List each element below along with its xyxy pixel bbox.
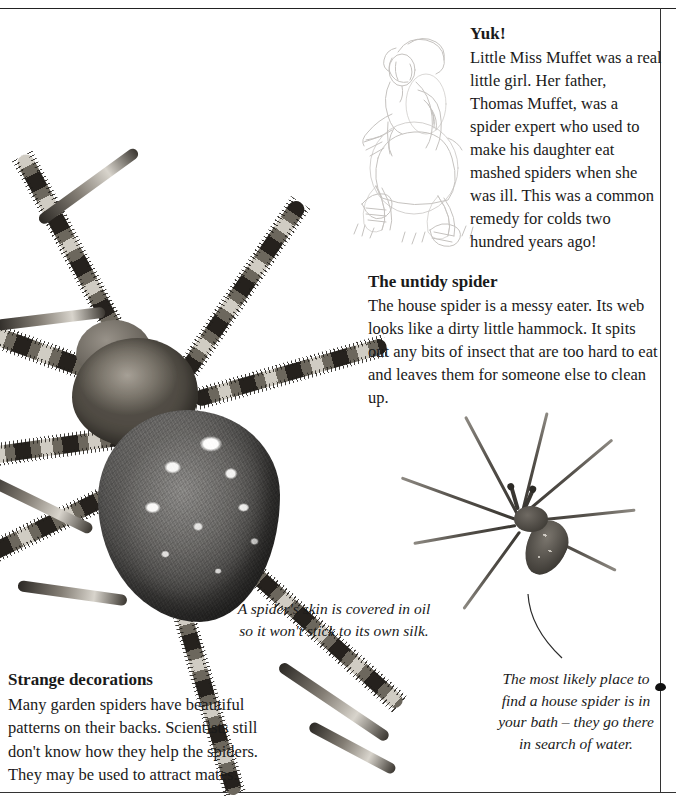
caption-spider-skin: A spider's skin is covered in oil so it …	[236, 598, 432, 641]
strange-heading: Strange decorations	[8, 668, 258, 692]
untidy-heading: The untidy spider	[368, 270, 658, 293]
house-spider-abdomen	[516, 514, 575, 581]
spider-cephalothorax	[72, 338, 198, 448]
house-spider-leg	[401, 476, 517, 521]
spider-abdomen	[98, 410, 280, 622]
page-border-top	[0, 8, 676, 9]
page-edge-marker-icon	[655, 682, 667, 691]
house-spider-leg	[413, 524, 516, 545]
house-spider-leg	[526, 509, 636, 523]
spider-leg	[0, 473, 144, 598]
spider-leg-tip	[307, 721, 397, 776]
caption-leader-line	[524, 592, 594, 664]
spider-leg	[0, 428, 127, 475]
article-yuk: Yuk! Little Miss Muffet was a real littl…	[470, 22, 662, 253]
garden-spider-photograph	[0, 20, 400, 780]
spider-leg-tip	[17, 580, 127, 606]
spider-leg-tip	[0, 307, 106, 331]
spider-leg	[0, 287, 123, 389]
strange-body: Many garden spiders have beautiful patte…	[8, 693, 258, 787]
house-spider-leg	[521, 439, 613, 517]
caption-house-spider-bath: The most likely place to find a house sp…	[496, 668, 656, 754]
book-page: Yuk! Little Miss Muffet was a real littl…	[0, 0, 676, 800]
house-spider-leg	[527, 526, 616, 572]
house-spider-leg	[464, 416, 519, 516]
little-miss-muffet-illustration	[352, 18, 476, 250]
spider-head	[76, 320, 152, 378]
house-spider-leg	[521, 412, 549, 514]
spider-leg-tip	[277, 661, 391, 743]
spider-leg-tip	[0, 473, 94, 535]
yuk-body: Little Miss Muffet was a real little gir…	[470, 46, 662, 253]
spider-leg-tip	[37, 147, 141, 226]
house-spider-palp	[509, 484, 520, 510]
article-strange-decorations: Strange decorations Many garden spiders …	[8, 668, 258, 787]
untidy-body: The house spider is a messy eater. Its w…	[368, 294, 658, 409]
house-spider-palp	[522, 487, 535, 511]
yuk-heading: Yuk!	[470, 22, 662, 45]
spider-leg	[192, 337, 389, 408]
spider-leg	[179, 198, 308, 377]
house-spider-cephalothorax	[514, 506, 548, 532]
house-spider-leg	[462, 531, 521, 610]
spider-leg	[15, 151, 138, 362]
article-untidy-spider: The untidy spider The house spider is a …	[368, 270, 658, 409]
page-border-bottom	[0, 792, 676, 793]
